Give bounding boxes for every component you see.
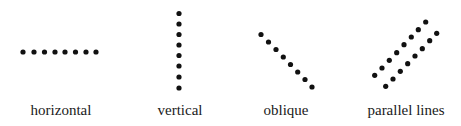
oblique-dot-line xyxy=(258,32,314,90)
dot xyxy=(372,73,377,78)
dot xyxy=(31,49,36,54)
panel-horizontal: horizontal xyxy=(20,49,98,118)
dot xyxy=(281,54,286,59)
panel-vertical: vertical xyxy=(158,11,203,118)
dot xyxy=(266,39,271,44)
dot xyxy=(401,42,406,47)
dot xyxy=(420,46,425,51)
dot xyxy=(176,74,181,79)
dot xyxy=(176,11,181,16)
dot xyxy=(383,84,388,89)
vertical-dot-line xyxy=(176,11,181,91)
panel-oblique: oblique xyxy=(258,32,314,118)
dot xyxy=(387,58,392,63)
dot xyxy=(176,85,181,90)
oblique-label: oblique xyxy=(264,102,309,118)
horizontal-dot-line xyxy=(20,49,98,54)
dot xyxy=(309,84,314,89)
vertical-label: vertical xyxy=(158,102,203,118)
dot-pattern-diagram: horizontal vertical oblique parallel lin… xyxy=(0,0,461,126)
dot xyxy=(434,31,439,36)
dot xyxy=(295,69,300,74)
horizontal-label: horizontal xyxy=(31,102,92,118)
dot xyxy=(405,61,410,66)
dot xyxy=(176,21,181,26)
dot xyxy=(398,69,403,74)
dot xyxy=(52,49,57,54)
dot xyxy=(62,49,67,54)
dot xyxy=(302,77,307,82)
dot xyxy=(390,76,395,81)
dot xyxy=(379,65,384,70)
parallel-dot-lines xyxy=(372,19,439,89)
dot xyxy=(409,34,414,39)
dot xyxy=(288,62,293,67)
dot xyxy=(42,49,47,54)
parallel-lines-label: parallel lines xyxy=(367,102,444,118)
dot xyxy=(423,19,428,24)
dot xyxy=(73,49,78,54)
dot xyxy=(427,38,432,43)
dot xyxy=(394,50,399,55)
dot xyxy=(416,27,421,32)
dot xyxy=(176,63,181,68)
dot xyxy=(258,32,263,37)
dot xyxy=(20,49,25,54)
dot xyxy=(176,32,181,37)
dot xyxy=(176,53,181,58)
dot xyxy=(83,49,88,54)
panel-parallel-lines: parallel lines xyxy=(367,19,444,118)
dot xyxy=(93,49,98,54)
dot xyxy=(273,47,278,52)
dot xyxy=(412,53,417,58)
dot xyxy=(176,42,181,47)
